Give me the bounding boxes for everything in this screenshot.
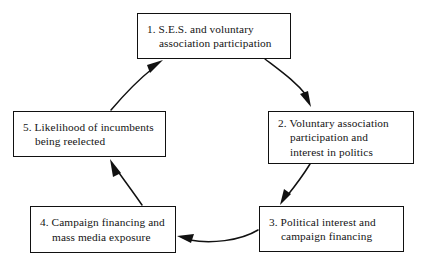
arrow-3-to-4 xyxy=(177,230,258,243)
cycle-node-2-label: 2. Voluntary association participation a… xyxy=(278,116,389,159)
cycle-node-5: 5. Likelihood of incumbents being reelec… xyxy=(13,111,166,157)
cycle-node-2: 2. Voluntary association participation a… xyxy=(268,111,414,164)
cycle-diagram: 1. S.E.S. and voluntary association part… xyxy=(0,0,427,272)
cycle-node-3-label: 3. Political interest and campaign finan… xyxy=(269,215,376,244)
arrow-5-to-1 xyxy=(111,60,163,110)
cycle-node-4-label: 4. Campaign financing and mass media exp… xyxy=(40,215,165,244)
cycle-node-1: 1. S.E.S. and voluntary association part… xyxy=(137,13,291,59)
cycle-node-1-label: 1. S.E.S. and voluntary association part… xyxy=(147,22,272,51)
cycle-node-4: 4. Campaign financing and mass media exp… xyxy=(30,206,176,253)
arrow-1-to-2 xyxy=(265,59,311,107)
cycle-node-3: 3. Political interest and campaign finan… xyxy=(259,206,404,252)
cycle-node-5-label: 5. Likelihood of incumbents being reelec… xyxy=(23,120,154,149)
arrow-4-to-5 xyxy=(110,159,142,205)
arrow-2-to-3 xyxy=(280,164,310,205)
